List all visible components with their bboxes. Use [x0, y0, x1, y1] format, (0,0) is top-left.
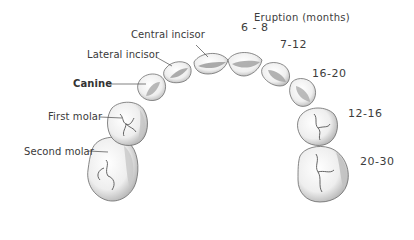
eruption-lateral-incisor: 7-12	[280, 38, 307, 51]
left-canine	[138, 74, 166, 101]
eruption-first-molar: 12-16	[348, 107, 382, 120]
right-central-incisor	[228, 53, 262, 77]
label-canine: Canine	[73, 78, 112, 90]
left-second-molar	[88, 137, 138, 201]
right-first-molar	[298, 108, 338, 145]
right-second-molar	[298, 146, 348, 202]
right-lateral-incisor	[262, 63, 290, 86]
left-first-molar	[108, 102, 148, 145]
label-first-molar: First molar	[48, 111, 102, 123]
label-lateral-incisor: Lateral incisor	[87, 49, 159, 61]
right-canine	[290, 79, 316, 107]
left-lateral-incisor	[164, 62, 192, 83]
eruption-canine: 16-20	[312, 67, 346, 80]
eruption-central-incisor: 6 - 8	[241, 21, 268, 34]
label-central-incisor: Central incisor	[131, 29, 205, 41]
left-central-incisor	[194, 53, 228, 74]
eruption-second-molar: 20-30	[360, 155, 394, 168]
label-second-molar: Second molar	[24, 146, 94, 158]
